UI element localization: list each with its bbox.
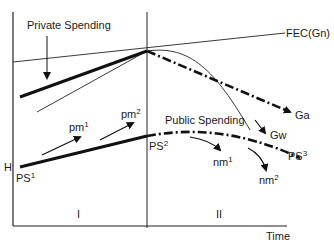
phase1-label: I: [77, 208, 80, 220]
gw-label: Gw: [270, 129, 287, 141]
ps2-label: PS2: [149, 139, 169, 152]
private-spending-label: Private Spending: [27, 19, 111, 31]
gw-arrow: [255, 120, 265, 133]
thin-rising-line: [37, 51, 147, 112]
spending-diagram: Private Spending Public Spending FEC(Gn)…: [0, 0, 334, 243]
fec-label: FEC(Gn): [286, 27, 330, 39]
nm2-label: nm2: [259, 173, 279, 186]
pm2-arrow: [100, 123, 133, 140]
public-spending-label: Public Spending: [165, 114, 245, 126]
nm1-label: nm1: [213, 155, 233, 168]
ga-curve: [147, 51, 290, 112]
pm2-label: pm2: [121, 107, 141, 120]
ga-label: Ga: [295, 109, 311, 121]
pm1-label: pm1: [69, 120, 89, 133]
public-spending-curve: [20, 136, 147, 167]
nm2-arrow: [248, 148, 266, 170]
phase2-label: II: [216, 208, 222, 220]
h-label: H: [4, 161, 12, 173]
ps3-label: PS3: [288, 149, 308, 162]
private-spending-curve: [20, 51, 147, 97]
fec-line: [13, 33, 285, 62]
x-axis-label: Time: [266, 230, 290, 242]
nm1-arrow: [190, 137, 220, 150]
ps1-label: PS1: [16, 171, 36, 184]
